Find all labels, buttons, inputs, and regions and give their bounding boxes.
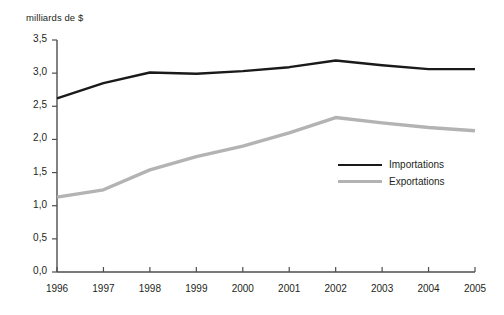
legend-item-importations: Importations [338, 156, 488, 173]
x-axis-tick-label: 2003 [359, 283, 405, 294]
y-axis-tick-label: 2,5 [13, 99, 47, 110]
y-axis-ticks [52, 40, 57, 272]
legend-item-label: Importations [389, 159, 444, 170]
black-line-swatch-icon [338, 164, 382, 166]
x-axis-tick-label: 1998 [127, 283, 173, 294]
x-axis-tick-label: 1999 [173, 283, 219, 294]
y-axis-tick-label: 0,5 [13, 232, 47, 243]
y-axis-tick-label: 0,0 [13, 265, 47, 276]
y-axis-tick-label: 3,5 [13, 33, 47, 44]
x-axis-tick-label: 2000 [220, 283, 266, 294]
chart-container: milliards de $ 0,00,51,01,52,02,53,03,5 … [0, 0, 504, 315]
y-axis-tick-label: 3,0 [13, 66, 47, 77]
gray-line-swatch-icon [338, 180, 382, 183]
x-axis-tick-label: 2002 [313, 283, 359, 294]
x-axis-tick-label: 2005 [452, 283, 498, 294]
chart-legend: Importations Exportations [338, 156, 488, 190]
x-axis-tick-label: 1997 [80, 283, 126, 294]
legend-item-label: Exportations [389, 176, 445, 187]
legend-item-exportations: Exportations [338, 173, 488, 190]
x-axis-tick-label: 1996 [34, 283, 80, 294]
y-axis-tick-label: 1,0 [13, 199, 47, 210]
x-axis-tick-label: 2001 [266, 283, 312, 294]
x-axis-ticks [57, 267, 475, 272]
y-axis-tick-label: 2,0 [13, 132, 47, 143]
y-axis-tick-label: 1,5 [13, 166, 47, 177]
x-axis-tick-label: 2004 [406, 283, 452, 294]
series-line-importations [57, 61, 475, 99]
